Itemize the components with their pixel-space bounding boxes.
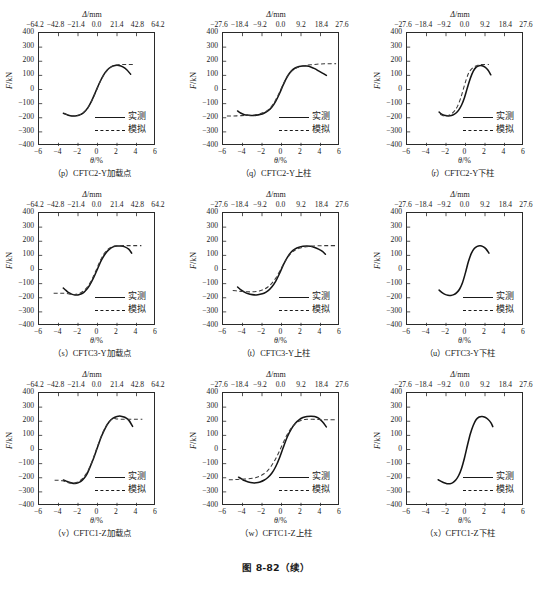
x-tick-label: 2 [298,507,302,516]
y-tick-label: −400 [202,321,218,329]
chart-panel-r: Δ/mm−27.6−18.4−9.20.09.218.427.640030020… [368,10,552,190]
curve-measured [63,65,130,116]
secondary-tick-label: −9.2 [437,200,451,209]
y-tick-label: 400 [23,388,34,396]
x-tick-label: 6 [337,147,341,156]
y-tick-label: 100 [207,70,218,78]
y-tick-label: 300 [391,222,402,230]
chart-panel-s: Δ/mm−64.2−42.8−21.40.021.442.864.2400300… [0,190,184,370]
x-tick-label: −6 [402,507,410,516]
x-axis-unit: /% [462,336,471,345]
secondary-axis-unit: /mm [271,10,286,19]
x-tick-label: 6 [153,147,157,156]
secondary-tick-label: 21.4 [110,200,123,209]
x-axis-title: θ/% [222,156,339,165]
x-tick-label: 0 [95,507,99,516]
x-tick-label: −6 [34,147,42,156]
secondary-tick-label: −18.4 [415,380,433,389]
x-tick-label: 4 [502,147,506,156]
y-tick-label: 200 [207,236,218,244]
x-tick-label: −4 [421,147,429,156]
x-tick-label: 6 [521,147,525,156]
x-tick-label: −2 [73,147,81,156]
y-tick-label: −200 [202,113,218,121]
secondary-axis-unit: /mm [455,370,470,379]
secondary-tick-label: 0.0 [460,200,470,209]
x-axis-unit: /% [278,156,287,165]
y-tick-label: 100 [23,70,34,78]
y-tick-label: 0 [30,265,34,273]
x-axis-unit: /% [462,516,471,525]
x-tick-label: −4 [237,147,245,156]
y-tick-label: 400 [207,208,218,216]
y-tick-label: 400 [207,388,218,396]
secondary-axis-unit: /mm [455,10,470,19]
secondary-tick-label: 18.4 [315,380,328,389]
y-tick-label: 200 [391,236,402,244]
secondary-tick-label: −42.8 [47,200,65,209]
y-tick-label: −200 [18,293,34,301]
secondary-axis-title: Δ/mm [368,190,552,199]
y-tick-label: 400 [391,28,402,36]
legend-row-simulated: 模拟 [95,304,157,317]
legend-key-dashed [463,490,493,491]
x-tick-label: −4 [53,507,61,516]
secondary-tick-label: 18.4 [315,20,328,29]
panel-caption-p: （p）CFTC2-Y加载点 [0,168,184,179]
y-axis-symbol: F [189,264,198,269]
x-axis-unit: /% [94,516,103,525]
chart-panel-x: Δ/mm−27.6−18.4−9.20.09.218.427.640030020… [368,370,552,550]
chart-panel-t: Δ/mm−27.6−18.4−9.20.09.218.427.640030020… [184,190,368,370]
x-tick-label: −4 [53,147,61,156]
x-tick-label: 6 [153,507,157,516]
secondary-tick-label: −42.8 [47,20,65,29]
y-tick-label: −200 [202,473,218,481]
y-tick-label: 0 [398,445,402,453]
x-tick-label: −4 [237,327,245,336]
legend-label-simulated: 模拟 [496,483,514,496]
y-tick-label: 400 [23,28,34,36]
secondary-tick-label: 27.6 [519,20,532,29]
chart-panel-u: Δ/mm−27.6−18.4−9.20.09.218.427.640030020… [368,190,552,370]
legend: 实测模拟 [95,471,157,497]
y-axis-symbol: F [373,84,382,89]
legend-key-solid [95,117,125,118]
y-tick-label: 0 [214,265,218,273]
y-axis-unit: /kN [189,72,198,84]
y-tick-label: 300 [23,402,34,410]
legend-row-measured: 实测 [463,291,525,304]
y-tick-label: −200 [18,473,34,481]
y-tick-label: −200 [386,113,402,121]
secondary-axis-title: Δ/mm [184,190,368,199]
x-tick-label: 0 [95,327,99,336]
y-tick-label: −300 [202,487,218,495]
secondary-axis-title: Δ/mm [368,10,552,19]
x-axis-unit: /% [278,516,287,525]
legend-row-simulated: 模拟 [463,304,525,317]
secondary-tick-labels: −27.6−18.4−9.20.09.218.427.6 [202,20,362,30]
secondary-tick-label: 0.0 [276,380,286,389]
secondary-axis-unit: /mm [87,370,102,379]
figure-caption: 图 8-82（续） [0,562,552,574]
y-axis-unit: /kN [373,72,382,84]
y-tick-label: −100 [18,459,34,467]
legend-key-dashed [279,130,309,131]
x-axis-title: θ/% [38,516,155,525]
x-tick-label: −6 [34,507,42,516]
secondary-tick-label: 27.6 [519,380,532,389]
y-tick-label: 0 [30,85,34,93]
legend-row-measured: 实测 [279,291,341,304]
x-tick-label: −4 [237,507,245,516]
legend-label-simulated: 模拟 [496,123,514,136]
x-tick-label: −6 [34,327,42,336]
legend-key-solid [463,297,493,298]
legend: 实测模拟 [463,471,525,497]
curve-measured [439,246,489,296]
x-axis-title: θ/% [222,516,339,525]
secondary-tick-label: 9.2 [480,380,490,389]
y-tick-label: −200 [18,113,34,121]
secondary-axis-title: Δ/mm [184,370,368,379]
y-axis-symbol: F [5,84,14,89]
x-tick-label: −2 [257,507,265,516]
secondary-tick-label: −18.4 [231,200,249,209]
